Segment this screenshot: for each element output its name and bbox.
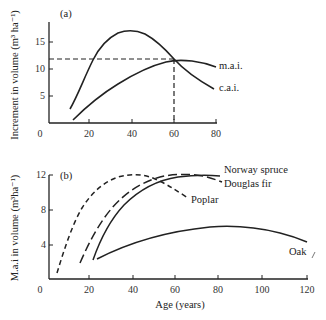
- panel-b-ytick-label: 4: [41, 239, 46, 250]
- panel-b-ytick-label: 12: [36, 169, 46, 180]
- poplar-label: Poplar: [191, 194, 219, 205]
- norway-spruce-label: Norway spruce: [224, 164, 288, 175]
- poplar-curve: [57, 175, 188, 273]
- oak-label: Oak: [289, 246, 307, 257]
- cai-label: c.a.i.: [219, 82, 239, 93]
- panel-b-xtick-label: 100: [255, 284, 270, 295]
- panel-a-ytick-label: 5: [40, 90, 45, 101]
- panel-b-xtick-label: 80: [213, 284, 223, 295]
- panel-b-xtick-label: 0: [38, 284, 43, 295]
- panel-a-xtick-label: 0: [38, 128, 43, 139]
- douglas-fir-label: Douglas fir: [224, 178, 272, 189]
- panel-b-label: (b): [60, 170, 73, 182]
- mai-label: m.a.i.: [219, 60, 243, 71]
- panel-a-xtick-label: 60: [169, 128, 179, 139]
- douglas-fir-curve: [80, 174, 222, 263]
- panel-b-ytick-label: 8: [41, 204, 46, 215]
- panel-b: (b) M.a.i in volume (m³ha⁻¹) 12 8 4 0 20…: [9, 164, 315, 311]
- panel-b-y-axis-title: M.a.i in volume (m³ha⁻¹): [9, 174, 21, 281]
- stray-mark: [312, 252, 315, 258]
- panel-b-xtick-label: 60: [170, 284, 180, 295]
- panel-b-xtick-label: 40: [128, 284, 138, 295]
- oak-curve: [97, 226, 307, 259]
- panel-a-y-axis-title: Increment in volume (m³ ha⁻¹): [9, 10, 21, 140]
- panel-a-label: (a): [60, 8, 72, 20]
- panel-a-ytick-label: 10: [35, 63, 45, 74]
- panel-a-ytick-label: 15: [35, 36, 45, 47]
- panel-a: (a) Increment in volume (m³ ha⁻¹) 15 10 …: [9, 8, 243, 140]
- norway-spruce-curve: [93, 175, 220, 260]
- figure: (a) Increment in volume (m³ ha⁻¹) 15 10 …: [0, 0, 326, 320]
- panel-b-xtick-label: 120: [300, 284, 315, 295]
- panel-a-xtick-label: 20: [84, 128, 94, 139]
- mai-curve: [73, 60, 216, 120]
- panel-a-xtick-label: 80: [211, 128, 221, 139]
- panel-a-xtick-label: 40: [127, 128, 137, 139]
- panel-b-x-axis-title: Age (years): [155, 299, 205, 311]
- panel-b-xtick-label: 20: [84, 284, 94, 295]
